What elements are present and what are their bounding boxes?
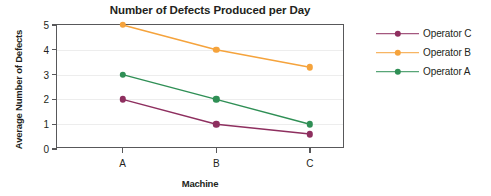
data-point [307,64,313,70]
data-point [213,47,219,53]
legend-marker-icon [394,68,400,74]
legend-marker-icon [394,49,400,55]
legend-label: Operator C [419,28,471,39]
y-axis-tick-label: 2 [43,94,49,105]
data-point [119,96,125,102]
data-point [213,121,219,127]
data-point [307,131,313,137]
legend-label: Operator B [419,47,471,58]
legend-item[interactable]: Operator B [376,43,488,62]
data-point [119,71,125,77]
data-point [307,121,313,127]
legend-symbol-icon [376,67,419,76]
x-axis-tick-label: B [213,158,220,169]
series-markers [57,25,343,147]
data-point [213,96,219,102]
x-axis-title: Machine [55,178,345,189]
legend-item[interactable]: Operator C [376,24,488,43]
legend-symbol-icon [376,48,419,57]
plot-area: 012345 ABC [56,24,344,148]
legend-marker-icon [394,30,400,36]
y-axis-tick-label: 5 [43,20,49,31]
y-axis-title: Average Number of Defects [13,20,24,160]
chart-title: Number of Defects Produced per Day [60,4,360,16]
y-axis-tick-label: 3 [43,69,49,80]
legend-label: Operator A [419,66,470,77]
chart-figure: Number of Defects Produced per Day Avera… [0,0,491,196]
legend-item[interactable]: Operator A [376,62,488,81]
chart-legend: Operator COperator BOperator A [376,24,488,81]
x-axis-tick-label: A [119,158,126,169]
y-axis-tick-label: 1 [43,119,49,130]
y-axis-tick-label: 0 [43,144,49,155]
data-point [119,22,125,28]
legend-symbol-icon [376,29,419,38]
x-axis-tick-label: C [306,158,313,169]
y-axis-tick-label: 4 [43,44,49,55]
